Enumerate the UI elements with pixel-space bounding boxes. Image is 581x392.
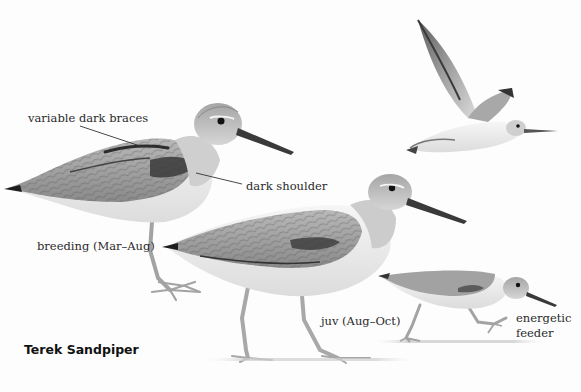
annotation-variable-dark-braces: variable dark braces [28, 112, 148, 125]
bird-illustrations [0, 0, 581, 392]
braces-leader-line [80, 126, 140, 146]
caption-juvenile: juv (Aug–Oct) [321, 315, 400, 328]
field-guide-plate: variable dark braces dark shoulder breed… [0, 0, 581, 392]
plate-title: Terek Sandpiper [24, 342, 139, 357]
caption-feeding-line-1: energetic [516, 311, 571, 326]
caption-feeding-line-2: feeder [516, 326, 571, 341]
flying-figure [406, 20, 558, 154]
annotation-dark-shoulder: dark shoulder [246, 180, 327, 193]
caption-feeding: energetic feeder [516, 311, 571, 341]
caption-breeding: breeding (Mar–Aug) [37, 240, 155, 253]
juvenile-figure [162, 174, 467, 363]
